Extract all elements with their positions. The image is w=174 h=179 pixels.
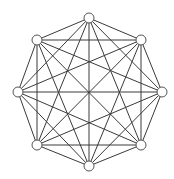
- graph-node: [157, 87, 167, 97]
- graph-node: [13, 87, 23, 97]
- graph-edge: [18, 40, 37, 92]
- graph-node: [136, 35, 146, 45]
- graph-node: [32, 140, 42, 150]
- graph-node: [136, 140, 146, 150]
- graph-edge: [18, 92, 37, 145]
- graph-node: [84, 161, 94, 171]
- graph-node: [32, 35, 42, 45]
- graph-node: [84, 13, 94, 23]
- complete-graph-diagram: [0, 0, 174, 179]
